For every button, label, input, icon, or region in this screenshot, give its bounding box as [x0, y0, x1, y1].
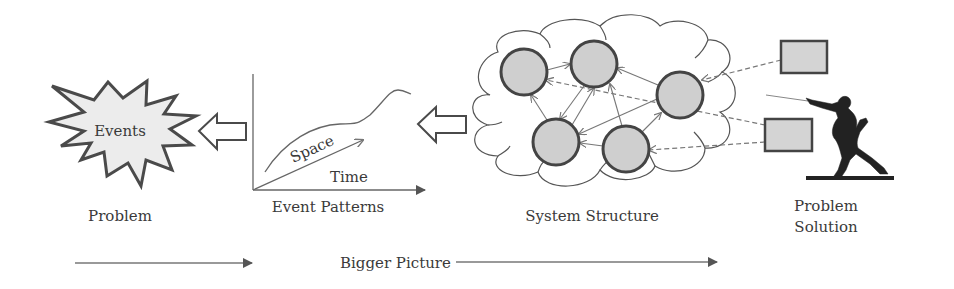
- node-a: [501, 49, 547, 95]
- hollow-arrow-left-2: [418, 107, 466, 142]
- fencer-base: [806, 176, 894, 180]
- node-e: [603, 126, 649, 172]
- fencer-body: [806, 96, 888, 176]
- bigger-picture-row: Bigger Picture: [75, 254, 717, 272]
- time-label: Time: [330, 168, 368, 186]
- node-d: [533, 119, 579, 165]
- node-c: [657, 72, 703, 118]
- event-patterns-label: Event Patterns: [272, 198, 385, 216]
- problem-label: Problem: [88, 207, 152, 225]
- problem-solution-label-line2: Solution: [794, 218, 858, 236]
- solution-box-1: [781, 41, 827, 73]
- problem-solution-label-line1: Problem: [794, 197, 858, 215]
- events-label: Events: [94, 122, 146, 140]
- bigger-picture-label: Bigger Picture: [340, 254, 451, 272]
- event-patterns-chart: Space Time Event Patterns: [253, 74, 425, 216]
- events-starburst: Events: [49, 81, 196, 186]
- space-label: Space: [287, 131, 337, 166]
- solution-box-2: [765, 119, 812, 151]
- node-b: [571, 41, 617, 87]
- hollow-arrow-left-1: [199, 114, 246, 149]
- system-structure-label: System Structure: [525, 207, 659, 225]
- fencer-sword: [766, 95, 808, 101]
- diagram-canvas: Events Problem Space Time Event Patterns: [0, 0, 954, 289]
- pattern-curve: [265, 90, 411, 172]
